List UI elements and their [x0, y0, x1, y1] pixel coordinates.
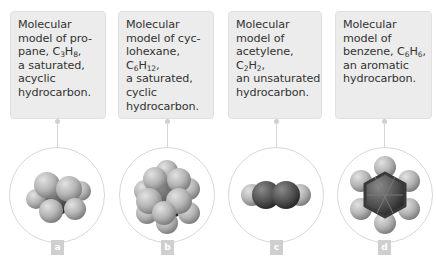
- benzene-model-icon: [337, 147, 433, 243]
- caption-line: pane, C3H8,: [18, 45, 105, 59]
- caption-box-benzene: Molecular model of benzene, C6H6, an aro…: [335, 11, 432, 119]
- caption-box-acetylene: Molecular model of acetylene, C2H2, an u…: [228, 11, 322, 119]
- connector-line: [276, 122, 277, 149]
- panel-label-badge: c: [270, 240, 283, 255]
- caption-line: hydrocarbon.: [126, 100, 213, 114]
- caption-box-propane: Molecular model of pro- pane, C3H8, a sa…: [10, 11, 106, 119]
- caption-line: acyclic: [18, 72, 105, 86]
- panel-label-badge: b: [161, 240, 174, 255]
- caption-line: Molecular: [18, 18, 105, 32]
- connector-line: [167, 122, 168, 149]
- caption-line: model of pro-: [18, 32, 105, 46]
- caption-line: a saturated,: [18, 59, 105, 73]
- caption-line: model of cyc-: [126, 32, 213, 46]
- caption-line: an aromatic: [343, 59, 431, 73]
- panel-a: Molecular model of pro- pane, C3H8, a sa…: [10, 0, 120, 261]
- connector-line: [384, 122, 385, 149]
- caption-line: Molecular: [126, 18, 213, 32]
- caption-line: C6H12,: [126, 59, 213, 73]
- caption-line: hydrocarbon.: [18, 86, 105, 100]
- caption-line: acetylene,: [236, 45, 321, 59]
- panel-d: Molecular model of benzene, C6H6, an aro…: [335, 0, 436, 261]
- caption-line: model of: [236, 32, 321, 46]
- caption-line: lohexane,: [126, 45, 213, 59]
- caption-line: Molecular: [236, 18, 321, 32]
- caption-line: hydrocarbon.: [343, 72, 431, 86]
- panel-b: Molecular model of cyc- lohexane, C6H12,…: [118, 0, 228, 261]
- caption-box-cyclohexane: Molecular model of cyc- lohexane, C6H12,…: [118, 11, 214, 119]
- caption-line: cyclic: [126, 86, 213, 100]
- panel-label-badge: a: [51, 240, 64, 255]
- cyclohexane-model-icon: [119, 147, 215, 243]
- caption-line: C2H2,: [236, 59, 321, 73]
- connector-line: [57, 122, 58, 149]
- propane-model-icon: [9, 147, 105, 243]
- caption-line: model of: [343, 32, 431, 46]
- caption-line: hydrocarbon.: [236, 86, 321, 100]
- panel-c: Molecular model of acetylene, C2H2, an u…: [228, 0, 338, 261]
- acetylene-model-icon: [228, 147, 324, 243]
- caption-line: benzene, C6H6,: [343, 45, 431, 59]
- caption-line: Molecular: [343, 18, 431, 32]
- caption-line: a saturated,: [126, 72, 213, 86]
- panel-label-badge: d: [378, 240, 391, 255]
- caption-line: an unsaturated: [236, 72, 321, 86]
